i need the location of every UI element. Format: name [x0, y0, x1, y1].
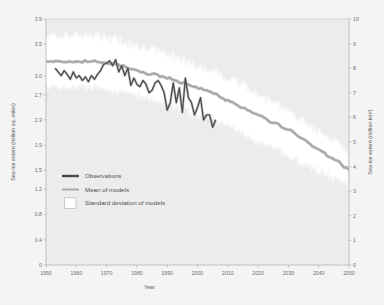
y-tick-label-left: 0.8 — [35, 211, 42, 217]
legend-label: Observations — [85, 172, 121, 179]
x-tick-label: 1990 — [161, 270, 173, 276]
x-tick-label: 2050 — [343, 270, 355, 276]
y-tick-label-right: 3 — [353, 188, 356, 194]
y-tick-label-left: 0.4 — [35, 237, 42, 243]
y-tick-label-left: 2.7 — [35, 92, 42, 98]
y-tick-label-right: 5 — [353, 139, 356, 145]
y-axis-right-title: Sea-ice extent (million km²) — [367, 109, 373, 175]
x-tick-label: 2000 — [192, 270, 204, 276]
x-tick-label: 2010 — [222, 270, 234, 276]
legend-label: Mean of models — [85, 186, 129, 193]
y-tick-label-right: 2 — [353, 213, 356, 219]
y-tick-label-right: 9 — [353, 41, 356, 47]
x-tick-label: 2020 — [252, 270, 264, 276]
y-tick-label-left: 1.5 — [35, 167, 42, 173]
y-axis-left-title: Sea-ice extent (million sq. miles) — [10, 103, 16, 181]
y-tick-label-left: 0 — [39, 262, 42, 268]
y-tick-label-left: 3.5 — [35, 41, 42, 47]
x-tick-label: 1970 — [101, 270, 113, 276]
chart-svg: 00.40.81.21.51.92.32.73.03.53.9 01234567… — [0, 0, 384, 305]
x-tick-label: 2040 — [313, 270, 325, 276]
y-tick-label-right: 0 — [353, 262, 356, 268]
y-tick-label-left: 1.2 — [35, 186, 42, 192]
y-tick-label-left: 2.3 — [35, 117, 42, 123]
y-tick-label-right: 4 — [353, 164, 356, 170]
y-tick-label-left: 3.0 — [35, 73, 42, 79]
legend-swatch-box — [65, 198, 77, 209]
x-tick-label: 1980 — [131, 270, 143, 276]
y-tick-label-right: 6 — [353, 114, 356, 120]
x-tick-label: 1960 — [71, 270, 83, 276]
y-tick-label-right: 7 — [353, 90, 356, 96]
legend-label: Standard deviation of models — [85, 199, 165, 206]
y-tick-label-left: 3.9 — [35, 16, 42, 22]
x-axis-title: Year — [144, 284, 155, 290]
y-tick-label-right: 10 — [353, 16, 359, 22]
x-tick-label: 2030 — [283, 270, 295, 276]
x-tick-label: 1950 — [40, 270, 52, 276]
y-tick-label-left: 1.9 — [35, 142, 42, 148]
sea-ice-extent-chart: 00.40.81.21.51.92.32.73.03.53.9 01234567… — [0, 0, 384, 305]
y-tick-label-right: 1 — [353, 237, 356, 243]
y-tick-label-right: 8 — [353, 65, 356, 71]
